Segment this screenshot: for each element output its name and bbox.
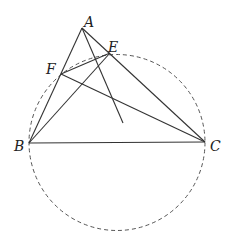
segment-bc: [29, 142, 205, 143]
geometry-diagram: A E F B C: [0, 0, 230, 247]
segment-ab: [29, 28, 82, 143]
segment-cf: [61, 74, 205, 142]
diagram-svg: [0, 0, 230, 247]
label-a: A: [84, 15, 94, 29]
segment-ac: [82, 28, 205, 142]
label-e: E: [108, 40, 118, 54]
label-c: C: [210, 139, 221, 153]
label-f: F: [46, 62, 56, 76]
label-b: B: [14, 139, 24, 153]
segment-fe: [61, 53, 110, 74]
